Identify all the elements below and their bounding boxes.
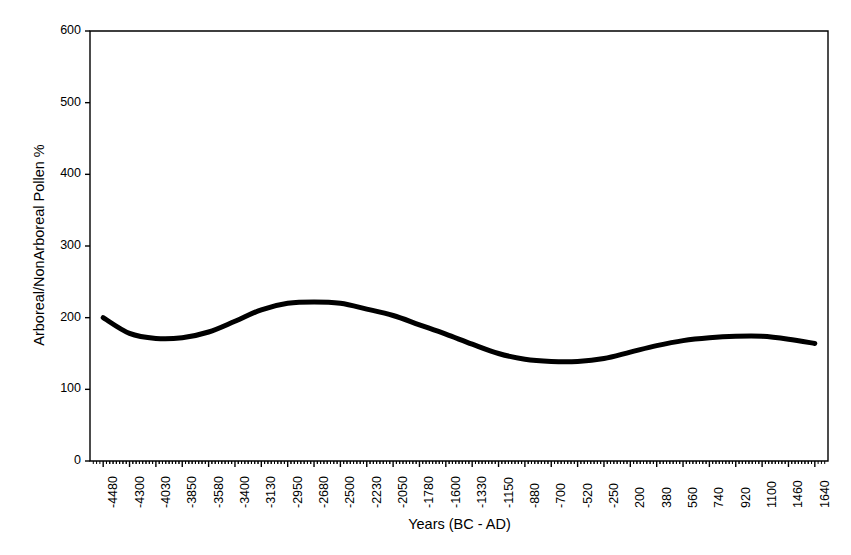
x-axis-tick-label: -2050: [398, 476, 408, 508]
x-axis-tick-label: 740: [714, 487, 724, 508]
x-axis-tick-label: 560: [688, 487, 698, 508]
x-axis-tick-label: -3400: [240, 476, 250, 508]
x-axis-tick-label: -3130: [266, 476, 276, 508]
x-axis-tick-label: -2500: [345, 476, 355, 508]
x-axis-tick-label: -4300: [135, 476, 145, 508]
x-axis-tick-label: 380: [662, 487, 672, 508]
x-axis-tick-label: 200: [635, 487, 645, 508]
x-axis-tick-label: -2680: [319, 476, 329, 508]
x-axis-tick-label: -2950: [293, 476, 303, 508]
x-axis-tick-label: 1640: [820, 480, 830, 508]
x-axis-tick-label: -4480: [108, 476, 118, 508]
x-axis-tick-label: 1100: [767, 481, 777, 508]
x-axis-tick-label: 1460: [793, 480, 803, 508]
x-axis-tick-label: -880: [530, 483, 540, 508]
x-axis-tick-label: -1330: [477, 476, 487, 508]
x-axis-tick-label: -3850: [187, 476, 197, 508]
x-axis-tick-label: 920: [741, 487, 751, 508]
x-axis-ticks: [93, 461, 824, 467]
x-axis-tick-label: -1780: [424, 476, 434, 508]
x-axis-tick-label: -700: [556, 483, 566, 508]
x-axis-tick-label: -520: [583, 483, 593, 508]
x-axis-tick-label: -1150: [504, 477, 514, 508]
plot-frame: [90, 31, 828, 461]
x-axis-tick-label: -3580: [214, 476, 224, 508]
y-axis-ticks: [85, 31, 90, 461]
chart-container: Arboreal/NonArboreal Pollen % 6005004003…: [0, 0, 851, 555]
x-axis-title: Years (BC - AD): [90, 516, 829, 532]
x-axis-tick-label: -2230: [372, 476, 382, 508]
data-series-line: [103, 302, 815, 362]
x-axis-tick-label: -4030: [161, 476, 171, 508]
plot-area: [0, 0, 851, 555]
x-axis-tick-label: -250: [609, 483, 619, 508]
x-axis-tick-label: -1600: [451, 476, 461, 508]
